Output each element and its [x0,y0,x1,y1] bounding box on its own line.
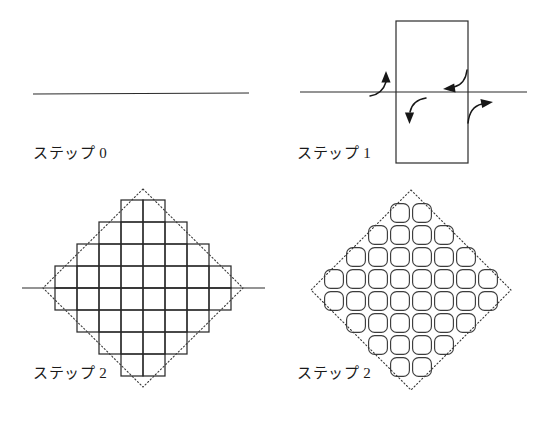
aztec-cell [121,266,143,288]
aztec-cell [435,292,454,311]
aztec-cell [325,292,344,311]
aztec-cell [391,314,410,333]
aztec-cell [325,270,344,289]
aztec-cell [99,222,121,244]
baseline-horizontal-line [33,93,249,94]
aztec-cell [55,266,77,288]
aztec-cell [347,314,366,333]
aztec-cell [121,310,143,332]
aztec-cell [143,310,165,332]
aztec-cell [391,358,410,377]
aztec-cell [413,292,432,311]
step2-square-diagram [0,180,271,432]
aztec-cell [413,270,432,289]
aztec-cell [369,248,388,267]
aztec-cell [391,292,410,311]
aztec-cell [187,266,209,288]
arrow-left-right-icon [443,70,467,93]
aztec-cell [457,292,476,311]
aztec-cell [369,226,388,245]
aztec-cell [165,332,187,354]
aztec-cell [369,336,388,355]
aztec-cell [143,266,165,288]
aztec-cell [121,222,143,244]
aztec-cell [121,200,143,222]
dotted-diamond-outline [311,190,511,390]
caption-step-1: ステップ 1 [297,141,371,162]
aztec-cell [187,310,209,332]
aztec-cell [209,266,231,288]
aztec-cell [435,336,454,355]
step2-rounded-cells [325,204,498,377]
aztec-cell [99,332,121,354]
aztec-cell [165,222,187,244]
aztec-cell [143,332,165,354]
aztec-cell [435,270,454,289]
figure-canvas: ステップ 0 [0,0,542,432]
aztec-cell [143,200,165,222]
aztec-cell [347,292,366,311]
aztec-cell [479,270,498,289]
aztec-cell [369,314,388,333]
aztec-cell [413,358,432,377]
aztec-cell [391,336,410,355]
aztec-cell [413,248,432,267]
aztec-cell [413,336,432,355]
caption-step-0: ステップ 0 [33,141,107,162]
aztec-cell [121,288,143,310]
aztec-cell [413,204,432,223]
aztec-cell [187,288,209,310]
aztec-cell [369,270,388,289]
aztec-cell [143,354,165,376]
aztec-cell [413,314,432,333]
aztec-cell [165,266,187,288]
aztec-cell [391,248,410,267]
arrow-down-left-icon [405,98,426,124]
aztec-cell [413,226,432,245]
aztec-cell [77,310,99,332]
aztec-cell [165,310,187,332]
aztec-cell [369,292,388,311]
aztec-cell [121,354,143,376]
aztec-cell [391,270,410,289]
aztec-cell [479,292,498,311]
aztec-cell [165,288,187,310]
step2-rounded-dotted-diamond [311,190,511,390]
aztec-cell [55,288,77,310]
aztec-cell [435,314,454,333]
step2-rounded-diagram [271,180,542,432]
aztec-cell [347,248,366,267]
aztec-cell [435,248,454,267]
aztec-cell [121,244,143,266]
aztec-cell [347,270,366,289]
arrow-right-right-icon [468,99,493,123]
aztec-cell [99,244,121,266]
caption-step-2-right: ステップ 2 [297,361,371,382]
aztec-cell [209,288,231,310]
aztec-cell [143,222,165,244]
aztec-cell [77,244,99,266]
step2-square-cells [55,200,231,376]
aztec-cell [457,314,476,333]
aztec-cell [435,226,454,245]
caption-step-2-left: ステップ 2 [33,361,107,382]
panel-step-2-square [0,180,271,432]
aztec-cell [77,266,99,288]
aztec-cell [391,204,410,223]
aztec-cell [143,288,165,310]
aztec-cell [391,226,410,245]
aztec-cell [457,248,476,267]
aztec-cell [187,244,209,266]
aztec-cell [143,244,165,266]
aztec-cell [121,332,143,354]
aztec-cell [99,266,121,288]
panel-step-2-rounded [271,180,542,432]
aztec-cell [99,288,121,310]
aztec-cell [77,288,99,310]
aztec-cell [165,244,187,266]
aztec-cell [457,270,476,289]
aztec-cell [99,310,121,332]
